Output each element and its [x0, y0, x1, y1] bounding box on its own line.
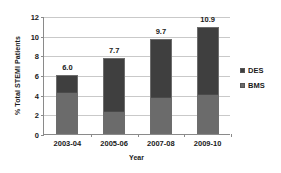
bar-segment-des[interactable] — [198, 28, 218, 95]
bars-layer: 6.07.79.710.9 — [44, 17, 230, 134]
y-axis-title: % Total STEMI Patients — [14, 21, 21, 131]
legend-swatch-bms-icon — [240, 83, 245, 88]
bar-stack[interactable] — [150, 39, 172, 134]
bar-total-label: 6.0 — [62, 63, 72, 72]
bar-segment-bms[interactable] — [57, 92, 77, 133]
stacked-bar-chart: % Total STEMI Patients 024681012 6.07.79… — [0, 0, 281, 173]
legend-item-des[interactable]: DES — [240, 66, 265, 75]
y-tick-label: 10 — [31, 32, 39, 41]
bar-total-label: 7.7 — [109, 46, 119, 55]
x-tick-mark — [231, 134, 232, 137]
y-tick-label: 12 — [31, 13, 39, 22]
y-tick-label: 6 — [35, 72, 39, 81]
x-tick-mark — [91, 134, 92, 137]
x-tick-label: 2009-10 — [194, 139, 222, 148]
bar-group[interactable]: 6.0 — [56, 16, 78, 134]
legend-label: BMS — [248, 81, 265, 90]
bar-segment-bms[interactable] — [198, 94, 218, 133]
legend-label: DES — [248, 66, 263, 75]
y-tick-label: 2 — [35, 111, 39, 120]
x-tick-label: 2003-04 — [54, 139, 82, 148]
bar-stack[interactable] — [56, 75, 78, 134]
y-tick-label: 8 — [35, 52, 39, 61]
legend-item-bms[interactable]: BMS — [240, 81, 265, 90]
legend-swatch-des-icon — [240, 68, 245, 73]
bar-group[interactable]: 7.7 — [103, 16, 125, 134]
bar-segment-des[interactable] — [104, 59, 124, 111]
x-tick-label: 2005-06 — [100, 139, 128, 148]
bar-segment-bms[interactable] — [151, 97, 171, 133]
bar-total-label: 9.7 — [156, 27, 166, 36]
bar-segment-des[interactable] — [57, 76, 77, 92]
y-tick-mark — [41, 135, 44, 136]
x-tick-mark — [184, 134, 185, 137]
bar-stack[interactable] — [197, 27, 219, 134]
x-tick-mark — [138, 134, 139, 137]
x-axis-title: Year — [43, 154, 230, 161]
y-tick-label: 4 — [35, 91, 39, 100]
y-tick-label: 0 — [35, 131, 39, 140]
chart-legend: DESBMS — [240, 66, 265, 96]
x-tick-label: 2007-08 — [147, 139, 175, 148]
bar-segment-bms[interactable] — [104, 111, 124, 133]
plot-area: 024681012 6.07.79.710.9 2003-042005-0620… — [43, 17, 230, 135]
bar-group[interactable]: 9.7 — [150, 16, 172, 134]
bar-segment-des[interactable] — [151, 40, 171, 98]
bar-group[interactable]: 10.9 — [197, 16, 219, 134]
bar-stack[interactable] — [103, 58, 125, 134]
bar-total-label: 10.9 — [200, 15, 215, 24]
